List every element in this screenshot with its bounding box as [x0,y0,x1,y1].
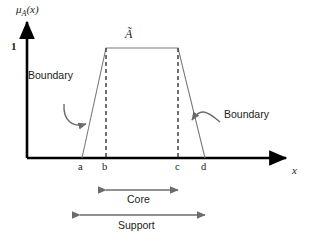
membership-curve [82,48,205,158]
boundary-left-pointer-icon [64,104,86,125]
x-tick-label-b: b [102,162,107,173]
x-tick-label-d: d [201,162,206,173]
x-tick-label-a: a [78,162,83,173]
x-axis-label: x [292,165,297,176]
boundary-right-label: Boundary [224,109,269,120]
y-axis-label-arg: (x) [26,3,38,15]
fuzzy-set-label: Ã [125,28,132,40]
core-label: Core [127,194,150,205]
y-axis-label: μA(x) [16,4,39,18]
y-tick-label-one: 1 [11,41,17,52]
fuzzy-membership-diagram: μA(x) 1 x Ã Boundary Boundary a b c d Co… [0,0,310,242]
x-tick-label-c: c [175,162,180,173]
support-label: Support [118,220,155,231]
diagram-canvas [0,0,310,242]
boundary-left-label: Boundary [28,70,73,81]
